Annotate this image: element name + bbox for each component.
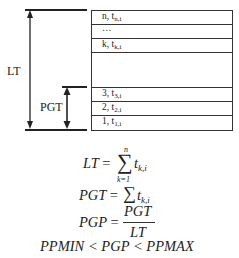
stack-row-3: 3, t3,i [102,88,121,100]
row-divider [92,52,232,53]
equation-ppmin-ppmax: PPMIN < PGP < PPMAX [40,238,194,255]
pgt-label: PGT [40,100,63,115]
fraction-bar [123,222,155,223]
stack-row-2: 2, t2,i [102,102,121,114]
row-divider [92,24,232,25]
lt-double-arrow-icon [24,9,38,131]
pgt-double-arrow-icon [61,86,75,131]
stack-row-ellipsis: … [102,23,112,33]
fraction-numerator: PGT [124,203,151,220]
sigma-icon: ∑ [123,184,136,202]
stack-row-k: k, tk,i [102,39,121,51]
stack-row-n: n, tn,i [102,11,121,23]
task-stack-box: n, tn,i … k, tk,i 3, t3,i 2, t2,i 1, t1,… [91,10,233,131]
stack-row-1: 1, t1,i [102,116,121,128]
sigma-icon: ∑ [117,151,133,173]
lt-label: LT [7,64,21,79]
